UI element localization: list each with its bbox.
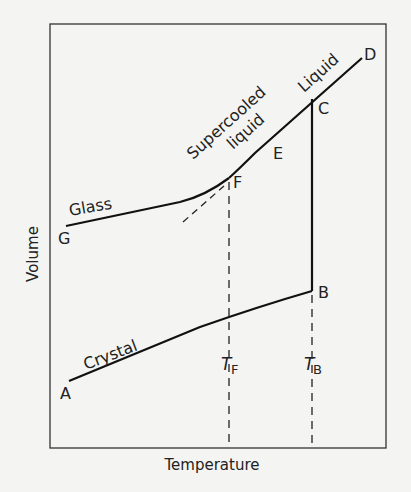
point-b-label: B bbox=[318, 283, 329, 302]
y-axis-label: Volume bbox=[24, 226, 42, 282]
point-g-label: G bbox=[58, 229, 70, 248]
tb-label: T B bbox=[304, 354, 322, 377]
glass-label: Glass bbox=[67, 194, 113, 220]
extrapolation-dashed-line bbox=[183, 186, 224, 222]
svg-text:B: B bbox=[313, 362, 322, 377]
liquid-label: Liquid bbox=[294, 50, 343, 96]
point-d-label: D bbox=[364, 45, 376, 64]
glass-transition-diagram: Glass Supercooled liquid Liquid Crystal … bbox=[0, 0, 411, 492]
point-c-label: C bbox=[318, 99, 329, 118]
point-e-label: E bbox=[273, 144, 283, 163]
crystal-label: Crystal bbox=[81, 336, 140, 374]
point-a-label: A bbox=[60, 384, 71, 403]
tf-label: T F bbox=[221, 354, 238, 377]
x-axis-label: Temperature bbox=[163, 456, 259, 474]
plot-frame bbox=[50, 24, 386, 448]
svg-text:F: F bbox=[231, 362, 238, 377]
point-f-label: F bbox=[233, 173, 242, 192]
crystal-curve bbox=[69, 291, 312, 381]
